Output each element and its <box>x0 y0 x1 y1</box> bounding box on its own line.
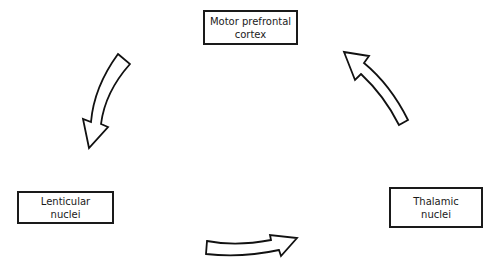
arrow-lenticular-to-thalamic <box>206 235 297 256</box>
node-motor-prefrontal-cortex: Motor prefrontal cortex <box>203 10 298 45</box>
arrow-thalamic-to-motor <box>344 52 408 125</box>
node-label: Thalamic nuclei <box>413 195 459 221</box>
arrow-motor-to-lenticular <box>83 54 130 148</box>
node-thalamic-nuclei: Thalamic nuclei <box>389 187 483 228</box>
node-label: Lenticular nuclei <box>41 195 90 221</box>
node-lenticular-nuclei: Lenticular nuclei <box>17 191 114 224</box>
node-label: Motor prefrontal cortex <box>210 15 291 41</box>
